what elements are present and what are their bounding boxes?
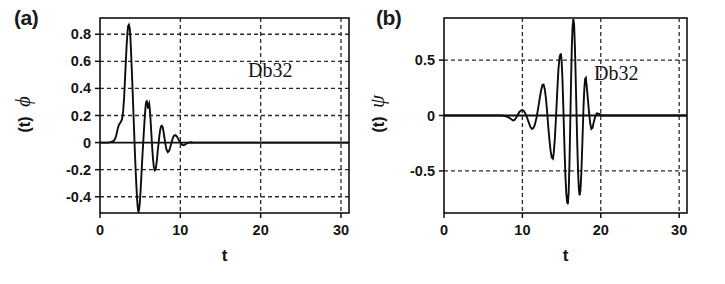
y-tick-label: 0.4: [71, 80, 91, 96]
y-axis-arg: (t): [16, 117, 33, 133]
wavelet-figure: (a) 01020300.80.60.40.20-0.2-0.4tϕ(t)Db3…: [0, 0, 725, 284]
y-axis-symbol: ψ: [365, 94, 389, 108]
y-tick-label: 0.6: [71, 53, 91, 69]
x-tick-label: 0: [440, 222, 448, 238]
y-axis-title: ϕ(t): [11, 96, 35, 133]
x-tick-label: 10: [514, 222, 530, 238]
x-tick-label: 20: [593, 222, 609, 238]
y-tick-label: 0: [427, 108, 435, 124]
x-tick-label: 0: [96, 222, 104, 238]
x-axis-title: t: [222, 246, 228, 265]
x-tick-label: 20: [253, 222, 269, 238]
y-axis-arg: (t): [370, 117, 387, 133]
x-axis-title: t: [563, 246, 569, 265]
y-tick-label: 0.5: [415, 52, 435, 68]
panel-b: (b) 01020300.50-0.5tψ(t)Db32: [362, 0, 724, 284]
y-tick-label: -0.2: [66, 162, 91, 178]
panel-a: (a) 01020300.80.60.40.20-0.2-0.4tϕ(t)Db3…: [0, 0, 362, 284]
x-tick-label: 10: [172, 222, 188, 238]
y-tick-label: 0.2: [71, 108, 91, 124]
y-tick-label: 0.8: [71, 26, 91, 42]
y-axis-title: ψ(t): [365, 94, 389, 132]
y-axis-symbol: ϕ: [11, 96, 35, 107]
panel-b-plot: 01020300.50-0.5tψ(t)Db32: [362, 0, 724, 284]
annotation-label: Db32: [248, 59, 292, 81]
data-curve: [100, 25, 349, 212]
panel-a-plot: 01020300.80.60.40.20-0.2-0.4tϕ(t)Db32: [0, 0, 362, 284]
y-tick-label: -0.4: [66, 189, 91, 205]
y-tick-label: -0.5: [410, 163, 435, 179]
x-tick-label: 30: [671, 222, 687, 238]
y-tick-label: 0: [83, 135, 91, 151]
x-tick-label: 30: [333, 222, 349, 238]
data-curve: [444, 19, 687, 204]
annotation-label: Db32: [594, 62, 638, 84]
